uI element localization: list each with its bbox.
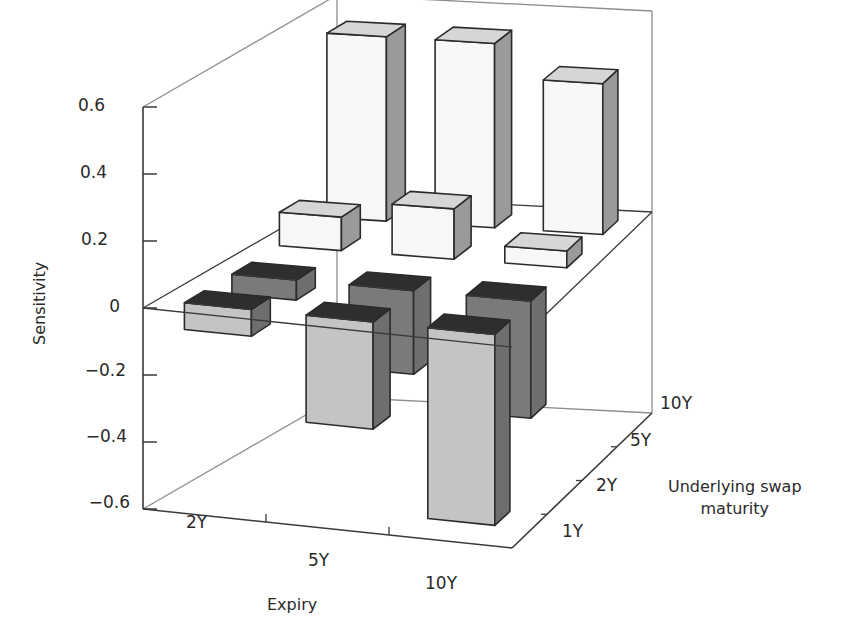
bar-front-face	[543, 80, 603, 235]
x-axis-title: Expiry	[267, 595, 317, 614]
y-axis-title-line-1: Underlying swap	[668, 476, 802, 498]
y-tick-label: 10Y	[660, 393, 692, 413]
bar-side-face	[603, 70, 618, 235]
bar-front-face	[279, 212, 341, 250]
x-tick-label: 5Y	[308, 550, 329, 570]
bar-front-face	[306, 315, 373, 429]
z-tick-label: 0	[60, 296, 120, 316]
bar-side-face	[495, 320, 510, 525]
y-tick-label: 1Y	[562, 521, 583, 541]
y-axis-title-line-2: maturity	[668, 498, 802, 520]
back-wall-top-edge	[337, 0, 652, 11]
z-tick-label: 0.2	[48, 229, 108, 249]
z-tick-label: 0.4	[47, 162, 107, 182]
bar-front-face	[392, 204, 454, 259]
x-tick-label: 2Y	[186, 512, 207, 532]
left-wall-top-edge	[143, 0, 337, 107]
y-tick-label: 2Y	[596, 475, 617, 495]
z-tick-label: −0.2	[66, 360, 126, 380]
sensitivity-3d-bar-chart	[0, 0, 842, 642]
x-tick-label: 10Y	[425, 573, 457, 593]
bar-side-face	[373, 309, 390, 429]
y-tick-label: 5Y	[630, 430, 651, 450]
bar-top-face	[543, 67, 618, 84]
bar-side-face	[386, 24, 405, 221]
y-axis-title: Underlying swap maturity	[668, 476, 802, 520]
bar-front-face	[327, 33, 387, 221]
z-tick-label: −0.4	[67, 426, 127, 446]
bar-side-face	[495, 30, 512, 228]
bar-front-face	[428, 328, 495, 526]
z-tick-label: 0.6	[45, 95, 105, 115]
z-tick-label: −0.6	[70, 492, 130, 512]
bar-side-face	[531, 287, 546, 418]
z-axis-title: Sensitivity	[30, 262, 49, 345]
